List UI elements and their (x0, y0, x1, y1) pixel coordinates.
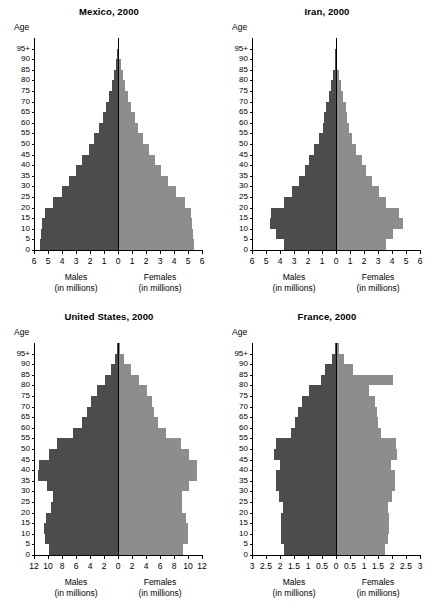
age-tick-label: 0 (26, 551, 30, 559)
x-tick-label: 1 (306, 562, 311, 571)
age-tick-label: 60 (239, 424, 248, 432)
age-tick-label: 65 (239, 413, 248, 421)
age-tick (32, 407, 35, 408)
center-axis-line (336, 343, 337, 555)
age-tick (32, 144, 35, 145)
females-caption-text: Females (357, 272, 400, 283)
age-tick-label: 55 (21, 129, 30, 137)
bar-male (51, 502, 118, 513)
bar-female (118, 144, 149, 155)
age-tick (250, 491, 253, 492)
bar-male (106, 102, 118, 113)
females-caption-units: (in millions) (357, 588, 400, 599)
bar-male (280, 460, 336, 471)
x-tick-label: 8 (172, 562, 177, 571)
x-tick-label: 6 (250, 257, 255, 266)
x-tick (378, 250, 379, 254)
x-tick-label: 12 (29, 562, 38, 571)
age-tick-label: 80 (21, 381, 30, 389)
x-tick-label: 8 (60, 562, 65, 571)
bar-female (336, 133, 352, 144)
plot-area: 05101520253035404550556065707580859095+6… (252, 38, 420, 250)
bar-female (118, 80, 125, 91)
x-tick-label: 1 (362, 562, 367, 571)
bar-female (118, 133, 143, 144)
x-tick (280, 250, 281, 254)
age-tick-label: 45 (21, 151, 30, 159)
bar-female (336, 176, 372, 187)
x-tick (90, 555, 91, 559)
bar-male (298, 407, 336, 418)
x-tick (174, 250, 175, 254)
x-tick (160, 250, 161, 254)
bar-female (118, 438, 181, 449)
males-caption-units: (in millions) (55, 588, 98, 599)
bar-male (281, 513, 336, 524)
bar-female (118, 155, 155, 166)
bar-male (314, 144, 336, 155)
age-tick-label: 75 (239, 392, 248, 400)
age-tick-label: 20 (21, 204, 30, 212)
x-tick-label: 1 (348, 257, 353, 266)
bar-female (118, 239, 194, 250)
age-tick (250, 197, 253, 198)
x-tick-label: 1 (102, 257, 107, 266)
x-tick (266, 250, 267, 254)
age-tick-label: 5 (26, 540, 30, 548)
bar-male (324, 112, 336, 123)
age-tick-label: 40 (21, 161, 30, 169)
bar-female (336, 144, 356, 155)
males-caption-units: (in millions) (273, 283, 316, 294)
x-tick (104, 555, 105, 559)
age-tick (32, 70, 35, 71)
x-tick (322, 555, 323, 559)
bar-female (336, 428, 381, 439)
x-tick-label: 2.5 (260, 562, 272, 571)
age-tick (250, 91, 253, 92)
age-tick (250, 70, 253, 71)
bar-female (118, 385, 147, 396)
bar-female (336, 186, 379, 197)
age-axis-caption: Age (232, 22, 247, 32)
age-tick (32, 186, 35, 187)
bar-male (284, 197, 336, 208)
bar-male (325, 364, 336, 375)
age-tick-label: 20 (239, 204, 248, 212)
x-tick (364, 555, 365, 559)
bar-female (118, 208, 191, 219)
age-tick (250, 229, 253, 230)
males-caption-text: Males (55, 272, 98, 283)
age-tick-label: 5 (244, 540, 248, 548)
bar-female (336, 470, 395, 481)
age-tick-label: 90 (239, 360, 248, 368)
age-tick-label: 5 (26, 235, 30, 243)
bar-female (118, 417, 158, 428)
x-tick (146, 555, 147, 559)
age-tick (32, 239, 35, 240)
bar-female (336, 438, 396, 449)
plot-area: 05101520253035404550556065707580859095+3… (252, 343, 420, 555)
males-caption-text: Males (55, 577, 98, 588)
age-tick (32, 165, 35, 166)
x-tick-label: 0 (116, 562, 121, 571)
bar-male (44, 523, 118, 534)
bar-male (82, 417, 118, 428)
x-tick-label: 5 (186, 257, 191, 266)
females-caption: Females(in millions) (139, 577, 182, 599)
age-tick (32, 375, 35, 376)
bar-male (329, 91, 336, 102)
age-tick (32, 481, 35, 482)
bar-female (336, 112, 347, 123)
age-tick (250, 239, 253, 240)
age-tick-label: 15 (239, 519, 248, 527)
bar-female (118, 186, 176, 197)
bar-female (336, 396, 375, 407)
bar-male (309, 385, 336, 396)
age-tick (32, 102, 35, 103)
x-tick (76, 555, 77, 559)
bar-male (41, 229, 118, 240)
bar-male (276, 229, 336, 240)
bar-male (105, 375, 118, 386)
age-tick-label: 45 (21, 456, 30, 464)
x-tick-label: 2 (278, 562, 283, 571)
